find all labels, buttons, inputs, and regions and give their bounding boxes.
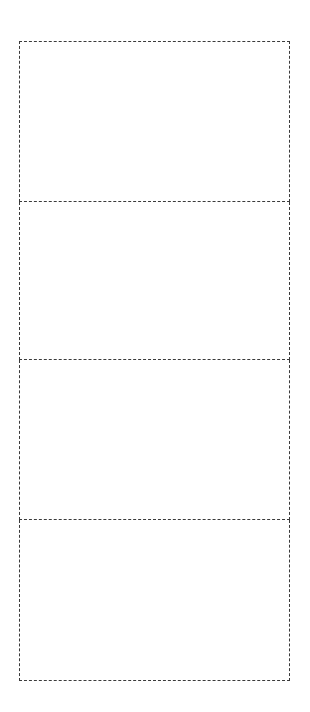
panel-3 (19, 360, 290, 520)
panel-1 (19, 41, 290, 202)
panel-2 (19, 202, 290, 360)
panel-4 (19, 520, 290, 681)
panel-strip (19, 41, 290, 681)
